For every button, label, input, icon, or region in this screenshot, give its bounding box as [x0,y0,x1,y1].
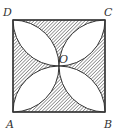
label-o: O [59,53,68,66]
label-d: D [2,6,12,19]
label-b: B [103,118,112,131]
label-a: A [5,118,14,131]
geometry-figure: D C A B O [0,0,118,133]
label-c: C [104,6,113,19]
